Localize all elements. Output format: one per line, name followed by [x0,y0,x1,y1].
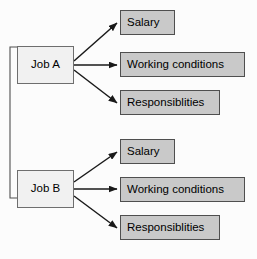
node-job-a-responsibilities[interactable]: Responsiblities [120,90,220,115]
node-job-b-responsibilities[interactable]: Responsiblities [120,215,220,240]
node-job-a-working-conditions-label: Working conditions [127,59,224,71]
node-job-b-label: Job B [31,183,60,195]
diagram-canvas: Job A Salary Working conditions Responsi… [0,0,257,259]
node-job-a[interactable]: Job A [17,46,74,84]
arrow-job-b-to-responsibilities [74,196,117,228]
node-job-a-salary-label: Salary [127,17,160,29]
node-job-a-label: Job A [31,59,60,71]
node-job-b[interactable]: Job B [17,170,74,208]
arrow-job-a-to-salary [74,23,117,61]
node-job-b-salary[interactable]: Salary [120,139,175,164]
node-job-b-working-conditions[interactable]: Working conditions [120,177,245,202]
job-link-connector [10,47,17,198]
arrow-job-a-to-responsibilities [74,70,117,103]
node-job-b-working-conditions-label: Working conditions [127,184,224,196]
node-job-b-salary-label: Salary [127,146,160,158]
node-job-b-responsibilities-label: Responsiblities [127,222,204,234]
node-job-a-salary[interactable]: Salary [120,10,175,35]
arrow-job-b-to-salary [74,152,117,182]
node-job-a-responsibilities-label: Responsiblities [127,97,204,109]
node-job-a-working-conditions[interactable]: Working conditions [120,52,245,77]
